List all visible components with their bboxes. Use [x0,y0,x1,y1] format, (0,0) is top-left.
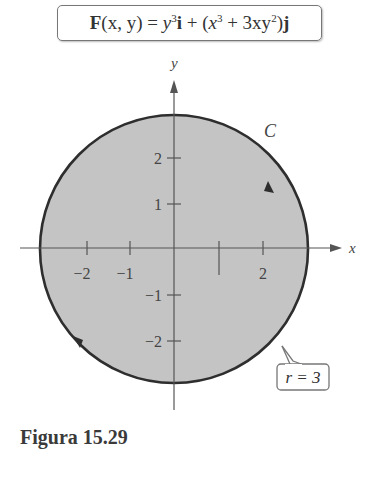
x-axis-arrow-icon [330,244,342,252]
x-tick-label: −2 [73,265,90,282]
y-tick-label: 2 [154,150,162,167]
x-tick-label: −1 [116,265,133,282]
y-tick-label: −2 [145,333,162,350]
x-tick-label: 2 [259,265,267,282]
figure-caption: Figura 15.29 [20,426,128,449]
curve-label: C [264,121,277,141]
circle-diagram: r = 3 x y −2 −1 2 2 1 −1 −2 C [0,0,377,491]
y-tick-label: −1 [145,287,162,304]
x-axis-label: x [348,240,356,256]
radius-callout-pointer [282,346,304,365]
y-axis-arrow-icon [170,80,178,93]
y-axis-label: y [169,55,178,71]
y-tick-label: 1 [154,196,162,213]
radius-label: r = 3 [285,368,320,387]
